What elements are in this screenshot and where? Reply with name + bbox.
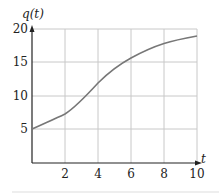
x-tick-4: 4: [94, 167, 102, 181]
x-tick-6: 6: [127, 167, 135, 181]
y-tick-20: 20: [13, 22, 28, 36]
x-tick-10: 10: [189, 167, 204, 181]
grid: [32, 29, 197, 163]
x-axis-label: t: [201, 152, 206, 166]
y-tick-15: 15: [13, 55, 28, 69]
y-tick-10: 10: [13, 89, 28, 103]
x-tick-8: 8: [160, 167, 168, 181]
y-tick-5: 5: [20, 122, 28, 136]
chart: 5 10 15 20 2 4 6 8 10 q(t) t: [0, 0, 219, 196]
y-axis-label: q(t): [22, 7, 44, 21]
x-tick-2: 2: [61, 167, 69, 181]
q-curve: [32, 36, 197, 129]
